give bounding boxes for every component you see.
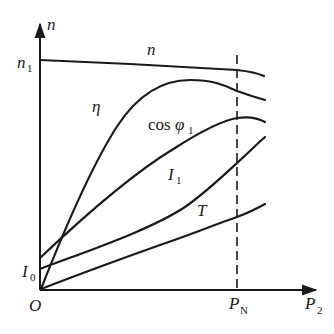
svg-text:1: 1 (27, 62, 33, 74)
curve-eta (41, 80, 265, 289)
label-t: T (197, 201, 208, 220)
label-eta: η (92, 97, 100, 116)
svg-text:1: 1 (176, 174, 182, 186)
label-n: n (147, 40, 156, 59)
motor-characteristics-diagram: n O P 2 n 1 I 0 P N n η cos φ 1 I 1 T (0, 0, 334, 334)
svg-text:I: I (21, 262, 29, 281)
curve-t (41, 204, 265, 289)
curve-n (40, 60, 264, 76)
tick-pn: P N (228, 294, 248, 316)
svg-text:2: 2 (317, 304, 323, 316)
y-axis-label: n (47, 15, 56, 34)
x-axis-label: P 2 (304, 294, 323, 316)
origin-label: O (29, 296, 41, 315)
tick-n1: n 1 (17, 53, 33, 74)
curve-cos-phi1 (40, 117, 265, 258)
curve-i1 (40, 137, 265, 269)
svg-text:I: I (167, 165, 175, 184)
svg-text:1: 1 (188, 124, 194, 136)
label-i1: I 1 (167, 165, 182, 186)
svg-text:n: n (17, 53, 26, 72)
svg-text:cos φ: cos φ (148, 115, 184, 134)
svg-text:P: P (304, 294, 315, 313)
svg-text:N: N (240, 304, 248, 316)
svg-text:P: P (228, 294, 239, 313)
svg-text:0: 0 (30, 271, 36, 283)
label-cos-phi1: cos φ 1 (148, 115, 194, 136)
tick-i0: I 0 (21, 262, 36, 283)
